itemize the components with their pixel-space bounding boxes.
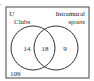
region-clubs-only: 14 [24,45,32,53]
universe-label: U [9,10,15,18]
region-neither: 109 [10,70,21,78]
region-both: 18 [42,45,50,53]
sports-label-line1: Intramural [55,10,85,18]
sports-label-line2: sports [68,18,85,26]
clubs-label: Clubs [14,18,31,26]
venn-diagram: , U Clubs Intramural sports 14 18 9 109 [0,0,94,81]
region-sports-only: 9 [63,45,67,53]
corner-mark: , [0,0,1,6]
